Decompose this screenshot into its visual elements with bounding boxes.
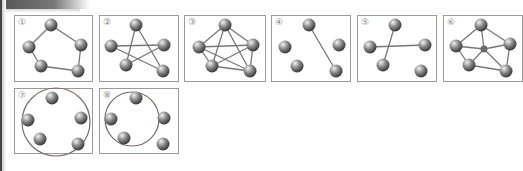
graph-node bbox=[45, 19, 58, 32]
left-shadow bbox=[2, 0, 6, 171]
graph-node bbox=[377, 59, 390, 72]
graph-node bbox=[244, 65, 257, 78]
graph-drawing bbox=[100, 89, 180, 155]
graph-panel-3: ③ bbox=[184, 15, 266, 82]
graph-node bbox=[158, 112, 171, 125]
graph-edge bbox=[309, 25, 336, 71]
graph-node bbox=[35, 60, 48, 73]
graph-panel-5: ⑤ bbox=[357, 15, 437, 82]
graph-node bbox=[105, 40, 118, 53]
graph-node bbox=[130, 19, 143, 32]
graph-drawing bbox=[272, 16, 352, 83]
panel-label: ④ bbox=[275, 17, 283, 27]
graph-node bbox=[463, 59, 476, 72]
graph-node bbox=[279, 41, 292, 54]
graph-node bbox=[75, 112, 88, 125]
graph-drawing bbox=[15, 89, 94, 155]
top-bar bbox=[0, 0, 90, 9]
graph-drawing bbox=[15, 16, 94, 83]
graph-node bbox=[291, 60, 304, 73]
graph-drawing bbox=[444, 16, 523, 83]
graph-node bbox=[157, 65, 170, 78]
graph-node bbox=[158, 39, 171, 52]
graph-node bbox=[333, 39, 346, 52]
panel-label: ⑥ bbox=[447, 17, 455, 27]
graph-node bbox=[72, 138, 85, 151]
graph-panel-8: ⑧ bbox=[99, 88, 179, 154]
graph-node bbox=[364, 41, 377, 54]
graph-node bbox=[504, 38, 517, 51]
panel-label: ① bbox=[18, 17, 26, 27]
center-node bbox=[481, 46, 488, 53]
graph-node bbox=[34, 133, 47, 146]
graph-panel-2: ② bbox=[99, 15, 179, 82]
graph-node bbox=[23, 41, 36, 54]
graph-node bbox=[219, 19, 232, 32]
graph-node bbox=[206, 60, 219, 73]
panel-label: ⑤ bbox=[361, 17, 369, 27]
panel-label: ⑧ bbox=[103, 90, 111, 100]
graph-panel-4: ④ bbox=[271, 15, 351, 82]
graph-node bbox=[389, 19, 402, 32]
panel-label: ⑦ bbox=[18, 90, 26, 100]
graph-drawing bbox=[185, 16, 267, 83]
panel-label: ③ bbox=[188, 17, 196, 27]
graph-node bbox=[105, 113, 118, 126]
graph-edge bbox=[199, 45, 253, 47]
graph-node bbox=[118, 132, 131, 145]
graph-drawing bbox=[358, 16, 438, 83]
graph-drawing bbox=[100, 16, 180, 83]
graph-node bbox=[450, 40, 463, 53]
graph-node bbox=[72, 65, 85, 78]
panel-label: ② bbox=[103, 17, 111, 27]
graph-panel-1: ① bbox=[14, 15, 93, 82]
graph-node bbox=[500, 65, 513, 78]
graph-panel-7: ⑦ bbox=[14, 88, 93, 154]
graph-node bbox=[193, 41, 206, 54]
graph-node bbox=[120, 59, 133, 72]
graph-node bbox=[247, 39, 260, 52]
graph-edge bbox=[370, 45, 425, 47]
graph-node bbox=[303, 19, 316, 32]
graph-panel-6: ⑥ bbox=[443, 15, 523, 82]
graph-node bbox=[75, 39, 88, 52]
graph-node bbox=[157, 138, 170, 151]
graph-node bbox=[130, 92, 143, 105]
graph-node bbox=[22, 114, 35, 127]
top-bar-shadow bbox=[0, 9, 80, 13]
graph-node bbox=[415, 65, 428, 78]
graph-node bbox=[330, 65, 343, 78]
graph-node bbox=[475, 19, 488, 32]
graph-node bbox=[46, 92, 59, 105]
graph-node bbox=[419, 39, 432, 52]
graph-edge bbox=[111, 45, 164, 46]
